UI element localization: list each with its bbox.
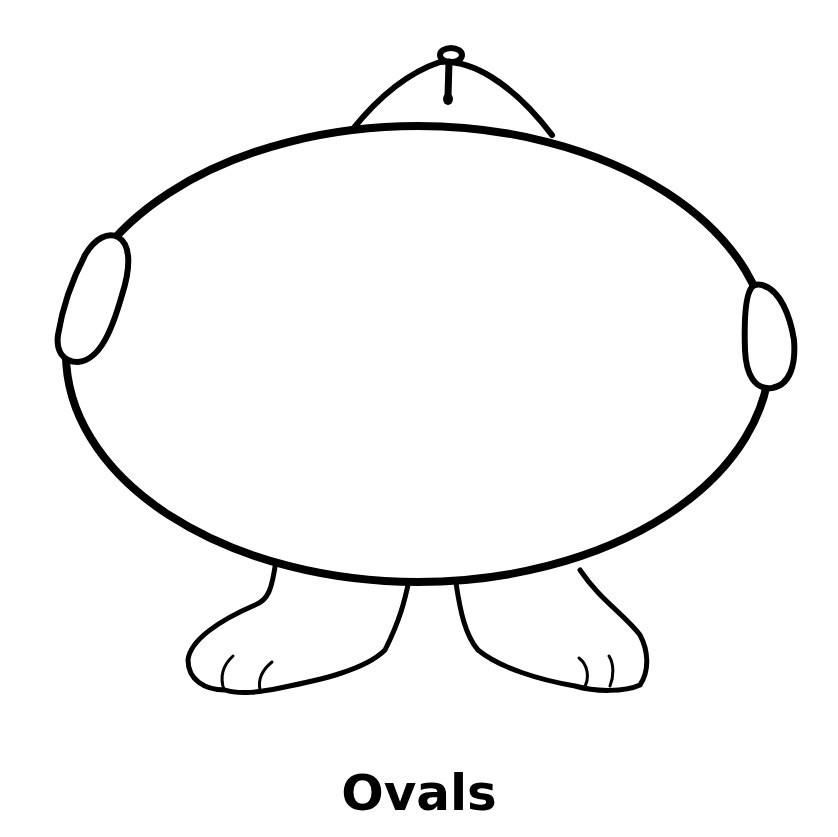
right-hand-oval [745,284,795,388]
right-foot-outline [456,570,647,690]
worksheet-caption: Ovals [0,768,838,818]
head-antenna-tip [443,93,453,105]
body-oval [66,126,770,582]
oval-creature-drawing [0,0,838,837]
head-antenna [448,62,449,96]
